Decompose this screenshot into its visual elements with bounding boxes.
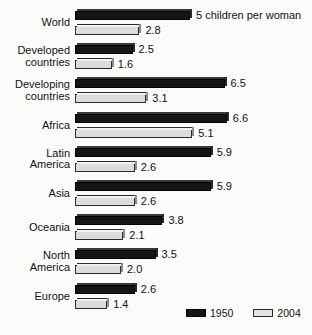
bar-side bbox=[190, 9, 192, 18]
bar-value-label: 2.6 bbox=[141, 161, 156, 174]
bar-side bbox=[107, 298, 109, 307]
bar-value-label: 3.1 bbox=[152, 92, 167, 105]
bar-value-label: 5.9 bbox=[217, 180, 232, 193]
bar-shape bbox=[75, 182, 211, 191]
bar-top bbox=[77, 9, 192, 11]
bar-value-label: 2.8 bbox=[145, 24, 160, 37]
bar-face bbox=[75, 11, 190, 20]
bar-side bbox=[156, 248, 158, 257]
bar-side bbox=[135, 195, 137, 204]
chart-legend: 1950 2004 bbox=[186, 307, 301, 319]
bar-shape bbox=[75, 250, 156, 259]
bar-value-label: 2.5 bbox=[139, 43, 154, 56]
bar-value-label: 3.8 bbox=[168, 214, 183, 227]
bar-shape bbox=[75, 163, 135, 172]
category-label: Africa bbox=[0, 120, 70, 132]
bar-face bbox=[75, 265, 121, 274]
bar-shape bbox=[75, 45, 133, 54]
bar-face bbox=[75, 285, 135, 294]
legend-label-1950: 1950 bbox=[210, 307, 233, 319]
bar-face bbox=[75, 26, 139, 35]
bar-top bbox=[77, 92, 148, 95]
bar-side bbox=[227, 112, 229, 121]
bar-shape bbox=[75, 265, 121, 274]
fertility-bar-chart: World5 children per woman2.8Developed co… bbox=[0, 0, 312, 335]
bar-top bbox=[77, 127, 194, 130]
bar-top bbox=[77, 195, 137, 198]
bar-top bbox=[77, 283, 137, 285]
bar-side bbox=[112, 58, 114, 67]
category-label: Developing countries bbox=[0, 79, 70, 102]
bar-value-label: 2.1 bbox=[129, 229, 144, 242]
bar-side bbox=[225, 77, 227, 86]
bar-side bbox=[133, 43, 135, 52]
chart-row: Latin America5.92.6 bbox=[0, 146, 312, 180]
legend-item-1950: 1950 bbox=[186, 307, 233, 319]
bar-side bbox=[211, 180, 213, 189]
chart-row: Developed countries2.51.6 bbox=[0, 43, 312, 77]
category-label: North America bbox=[0, 250, 70, 273]
bar-value-label: 2.0 bbox=[127, 263, 142, 276]
bar-value-label: 5.1 bbox=[198, 127, 213, 140]
category-label: World bbox=[0, 17, 70, 29]
bar-value-label: 2.6 bbox=[141, 195, 156, 208]
legend-label-2004: 2004 bbox=[277, 307, 300, 319]
chart-row: Developing countries6.53.1 bbox=[0, 77, 312, 111]
legend-swatch-2004 bbox=[253, 309, 273, 317]
bar-value-label: 6.6 bbox=[233, 112, 248, 125]
bar-value-label: 1.6 bbox=[118, 58, 133, 71]
bar-side bbox=[146, 92, 148, 101]
bar-top bbox=[77, 214, 164, 216]
bar-shape bbox=[75, 60, 112, 69]
bar-side bbox=[139, 24, 141, 33]
bar-side bbox=[135, 283, 137, 292]
bar-face bbox=[75, 250, 156, 259]
bar-shape bbox=[75, 11, 190, 20]
bar-side bbox=[192, 127, 194, 136]
legend-item-2004: 2004 bbox=[253, 307, 300, 319]
bar-shape bbox=[75, 231, 123, 240]
bar-top bbox=[77, 161, 137, 164]
bar-shape bbox=[75, 148, 211, 157]
bar-top bbox=[77, 180, 213, 182]
bar-face bbox=[75, 231, 123, 240]
legend-swatch-1950 bbox=[186, 309, 206, 317]
category-label: Europe bbox=[0, 291, 70, 303]
chart-row: Africa6.65.1 bbox=[0, 112, 312, 146]
bar-side bbox=[135, 161, 137, 170]
bar-face bbox=[75, 148, 211, 157]
category-label: Latin America bbox=[0, 148, 70, 171]
bar-top bbox=[77, 77, 227, 79]
bar-face bbox=[75, 163, 135, 172]
bar-shape bbox=[75, 197, 135, 206]
bar-shape bbox=[75, 216, 162, 225]
bar-face bbox=[75, 45, 133, 54]
bar-top bbox=[77, 298, 109, 301]
chart-row: North America3.52.0 bbox=[0, 248, 312, 282]
bar-face bbox=[75, 182, 211, 191]
chart-row: Oceania3.82.1 bbox=[0, 214, 312, 248]
bar-top bbox=[77, 112, 229, 114]
bar-top bbox=[77, 263, 123, 266]
category-label: Asia bbox=[0, 188, 70, 200]
bar-top bbox=[77, 43, 135, 45]
bar-top bbox=[77, 146, 213, 148]
bar-face bbox=[75, 79, 225, 88]
bar-value-label: 6.5 bbox=[231, 77, 246, 90]
bar-value-label: 1.4 bbox=[113, 298, 128, 311]
bar-top bbox=[77, 229, 125, 232]
bar-side bbox=[123, 229, 125, 238]
bar-side bbox=[162, 214, 164, 223]
chart-row: World5 children per woman2.8 bbox=[0, 9, 312, 43]
bar-value-label: 2.6 bbox=[141, 283, 156, 296]
bar-face bbox=[75, 60, 112, 69]
bar-value-label: 3.5 bbox=[162, 248, 177, 261]
bar-value-label: 5 children per woman bbox=[196, 9, 301, 22]
bar-face bbox=[75, 197, 135, 206]
bar-shape bbox=[75, 26, 139, 35]
bar-face bbox=[75, 94, 146, 103]
bar-top bbox=[77, 248, 158, 250]
chart-row: Asia5.92.6 bbox=[0, 180, 312, 214]
category-label: Developed countries bbox=[0, 45, 70, 68]
bar-shape bbox=[75, 129, 192, 138]
